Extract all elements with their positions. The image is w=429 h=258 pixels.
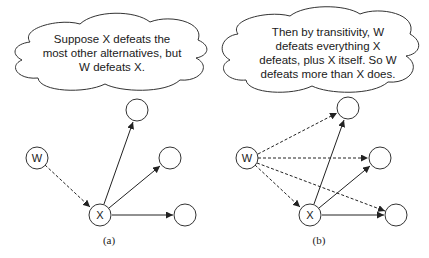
panel-b-edges bbox=[255, 113, 385, 215]
node-a-o3 bbox=[174, 204, 196, 226]
caption-a: (a) bbox=[103, 234, 116, 247]
node-b-o3 bbox=[385, 204, 407, 226]
panel-b-nodes bbox=[236, 97, 407, 226]
caption-b: (b) bbox=[313, 234, 326, 247]
node-b-o2 bbox=[369, 147, 391, 169]
edge-a-x-o2 bbox=[109, 166, 160, 208]
cloud-b-text: Then by transitivity, W defeats everythi… bbox=[254, 25, 402, 81]
panel-a-edges bbox=[45, 122, 173, 215]
edge-a-w-x bbox=[45, 165, 90, 207]
edge-b-w-o3 bbox=[257, 163, 385, 211]
edge-b-x-o2 bbox=[319, 166, 370, 208]
node-b-w-label: W bbox=[242, 152, 253, 164]
node-b-o1 bbox=[337, 97, 359, 119]
node-a-o1 bbox=[126, 99, 148, 121]
node-a-o2 bbox=[159, 147, 181, 169]
edge-b-w-x bbox=[255, 165, 300, 207]
node-a-x-label: X bbox=[96, 209, 104, 221]
node-a-w-label: W bbox=[32, 152, 43, 164]
cloud-a-text: Suppose X defeats the most other alterna… bbox=[42, 32, 182, 74]
node-b-x-label: X bbox=[306, 209, 314, 221]
edge-b-w-o1 bbox=[258, 113, 337, 154]
